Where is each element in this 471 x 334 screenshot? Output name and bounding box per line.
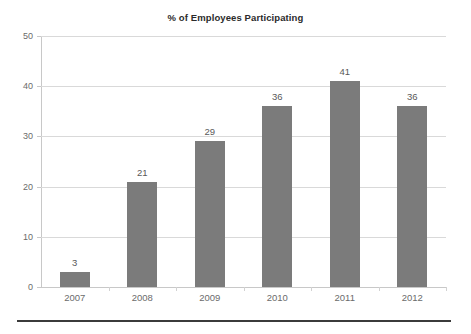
bar-value-label-2009: 29 — [204, 127, 215, 137]
bar-group-2010[interactable]: 36 — [244, 36, 312, 287]
x-tick-label-2009: 2009 — [176, 292, 244, 304]
bar-chart-figure: % of Employees Participating 01020304050… — [0, 0, 471, 334]
x-tick-mark-2009 — [244, 287, 245, 291]
plot-area: 32129364136 — [41, 36, 446, 287]
y-tick-mark-0 — [37, 287, 41, 288]
y-tick-mark-50 — [37, 36, 41, 37]
y-tick-label-0: 0 — [7, 283, 33, 292]
bar-group-2007[interactable]: 3 — [41, 36, 109, 287]
y-tick-mark-20 — [37, 187, 41, 188]
y-tick-label-40: 40 — [7, 82, 33, 91]
bottom-divider-rule — [17, 320, 451, 322]
bar-2011[interactable] — [330, 81, 360, 287]
y-tick-mark-10 — [37, 237, 41, 238]
bar-2012[interactable] — [397, 106, 427, 287]
x-tick-mark-2008 — [176, 287, 177, 291]
bar-2009[interactable] — [195, 141, 225, 287]
y-tick-label-50: 50 — [7, 32, 33, 41]
x-tick-label-2008: 2008 — [109, 292, 177, 304]
chart-title: % of Employees Participating — [0, 12, 471, 23]
y-axis-tick-labels: 01020304050 — [0, 0, 33, 334]
x-tick-label-2012: 2012 — [379, 292, 447, 304]
x-tick-label-2011: 2011 — [311, 292, 379, 304]
bar-value-label-2012: 36 — [407, 92, 418, 102]
y-tick-mark-30 — [37, 136, 41, 137]
x-axis-tick-labels: 200720082009201020112012 — [41, 292, 446, 308]
y-tick-label-20: 20 — [7, 183, 33, 192]
x-tick-mark-2012 — [446, 287, 447, 291]
x-tick-label-2007: 2007 — [41, 292, 109, 304]
bar-group-2012[interactable]: 36 — [379, 36, 447, 287]
x-tick-mark-2011 — [379, 287, 380, 291]
x-tick-mark-2007 — [109, 287, 110, 291]
bar-group-2009[interactable]: 29 — [176, 36, 244, 287]
bar-group-2011[interactable]: 41 — [311, 36, 379, 287]
bar-group-2008[interactable]: 21 — [109, 36, 177, 287]
bar-2010[interactable] — [262, 106, 292, 287]
bar-2007[interactable] — [60, 272, 90, 287]
y-tick-label-10: 10 — [7, 233, 33, 242]
bar-value-label-2010: 36 — [272, 92, 283, 102]
bar-value-label-2007: 3 — [72, 258, 77, 268]
bar-2008[interactable] — [127, 182, 157, 287]
bar-value-label-2011: 41 — [339, 67, 350, 77]
bar-value-label-2008: 21 — [137, 168, 148, 178]
x-tick-label-2010: 2010 — [244, 292, 312, 304]
y-tick-label-30: 30 — [7, 132, 33, 141]
y-tick-mark-40 — [37, 86, 41, 87]
x-tick-mark-2010 — [311, 287, 312, 291]
